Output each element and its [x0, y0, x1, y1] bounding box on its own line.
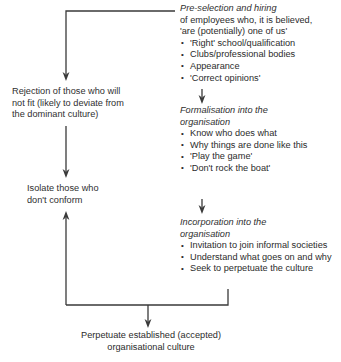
connector-preselection-to-formalisation	[199, 89, 206, 104]
bullet-item: 'Play the game'	[180, 151, 341, 163]
bullet-item: Why things are done like this	[180, 140, 341, 152]
heading-line: Formalisation into the	[180, 105, 341, 117]
stage-bullets-formalisation: Know who does what Why things are done l…	[180, 128, 341, 174]
stage-heading-incorporation: Incorporation into the organisation	[180, 217, 341, 240]
node-line: not fit (likely to deviate from	[12, 98, 162, 110]
bullet-item: Appearance	[180, 61, 341, 73]
bullet-item: Seek to perpetuate the culture	[180, 263, 332, 275]
subtext-line: 'are (potentially) one of us'	[180, 26, 341, 38]
subtext-line: of employees who, it is believed,	[180, 15, 341, 27]
stage-incorporation: Incorporation into the organisation Invi…	[180, 217, 341, 275]
heading-line: organisation	[180, 229, 341, 241]
stage-heading-formalisation: Formalisation into the organisation	[180, 105, 341, 128]
node-line: Perpetuate established (accepted)	[36, 330, 266, 342]
bullet-item: Know who does what	[180, 128, 341, 140]
bullet-item: Understand what goes on and why	[180, 252, 332, 264]
node-isolate: Isolate those who don't conform	[27, 183, 177, 206]
connector-formalisation-to-incorporation	[199, 199, 206, 214]
heading-line: Incorporation into the	[180, 217, 341, 229]
bullet-item: 'Right' school/qualification	[180, 38, 341, 50]
stage-heading-pre-selection: Pre-selection and hiring	[180, 3, 341, 15]
connector-incorporation-to-outcome	[66, 289, 228, 328]
connector-bus-to-isolate	[63, 211, 70, 305]
heading-line: Pre-selection and hiring	[180, 3, 341, 15]
heading-line: organisation	[180, 117, 341, 129]
bullet-item: 'Correct opinions'	[180, 73, 341, 85]
bullet-item: 'Don't rock the boat'	[180, 163, 341, 175]
bullet-item: Invitation to join informal societies	[180, 240, 332, 252]
node-line: Isolate those who	[27, 183, 177, 195]
flow-diagram: Pre-selection and hiring of employees wh…	[0, 0, 341, 362]
stage-pre-selection: Pre-selection and hiring of employees wh…	[180, 3, 341, 84]
node-line: the dominant culture)	[12, 109, 162, 121]
node-rejection: Rejection of those who will not fit (lik…	[12, 86, 162, 121]
node-line: Rejection of those who will	[12, 86, 162, 98]
node-line: don't conform	[27, 195, 177, 207]
stage-formalisation: Formalisation into the organisation Know…	[180, 105, 341, 175]
connector-rejection-to-isolate	[63, 126, 70, 178]
stage-subtext-pre-selection: of employees who, it is believed, 'are (…	[180, 15, 341, 38]
stage-bullets-incorporation: Invitation to join informal societies Un…	[180, 240, 332, 275]
bullet-item: Clubs/professional bodies	[180, 49, 341, 61]
node-perpetuate-outcome: Perpetuate established (accepted) organi…	[36, 330, 266, 353]
node-line: organisational culture	[36, 342, 266, 354]
stage-bullets-pre-selection: 'Right' school/qualification Clubs/profe…	[180, 38, 341, 84]
connector-preselection-to-rejection	[63, 11, 175, 81]
